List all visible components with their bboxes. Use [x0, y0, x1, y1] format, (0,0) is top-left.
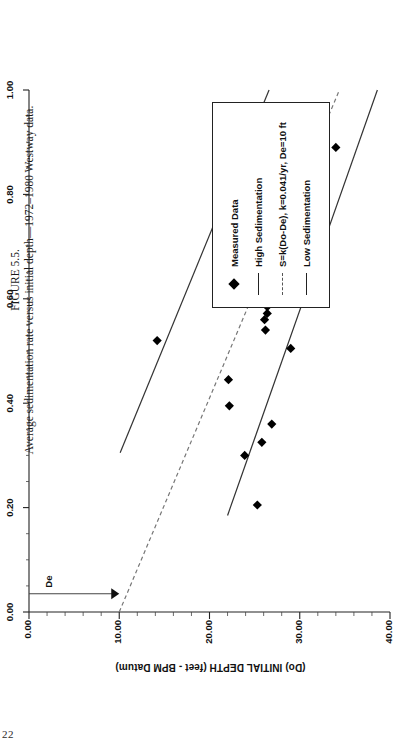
data-point-marker — [224, 375, 233, 384]
legend-item-label: Low Sedimentation — [301, 180, 312, 271]
chart-figure: SEDIMENTATION RATE (feet/year) (S) (Do) … — [0, 0, 398, 700]
legend-item: Measured Data — [222, 113, 246, 297]
data-point-marker — [257, 438, 266, 447]
data-point-marker — [267, 419, 276, 428]
data-point-marker — [153, 336, 162, 345]
y-axis-tick-label: 40.00 — [383, 620, 394, 664]
de-annotation-label: De — [43, 576, 54, 588]
x-axis-tick-label: 1.00 — [4, 76, 15, 104]
legend-item: S=k(Do-De), k=0.041/yr, De=10 ft — [270, 113, 294, 297]
y-axis-tick-label: 20.00 — [203, 620, 214, 664]
de-arrow-icon — [111, 588, 119, 599]
data-point-marker — [331, 143, 340, 152]
y-axis-tick-label: 0.00 — [22, 620, 33, 664]
page-number: 22 — [2, 728, 14, 740]
solid-line-icon — [258, 271, 259, 297]
legend-item: Low Sedimentation — [294, 113, 318, 297]
data-point-marker — [225, 401, 234, 410]
solid-line-icon — [306, 271, 307, 297]
legend-item-label: S=k(Do-De), k=0.041/yr, De=10 ft — [277, 122, 288, 271]
x-axis-tick-label: 0.40 — [4, 389, 15, 417]
x-axis-tick-label: 0.60 — [4, 285, 15, 313]
x-axis-tick-label: 0.20 — [4, 494, 15, 522]
chart-canvas: SEDIMENTATION RATE (feet/year) (S) (Do) … — [0, 0, 398, 700]
dashed-line-icon — [282, 271, 283, 297]
scatter-plot — [0, 0, 398, 700]
x-axis-tick-label: 0.80 — [4, 180, 15, 208]
data-point-marker — [253, 500, 262, 509]
chart-legend: Measured Data High Sedimentation S=k(Do-… — [212, 102, 330, 308]
x-axis-tick-label: 0.00 — [4, 598, 15, 626]
diamond-marker-icon — [230, 271, 238, 297]
legend-item-label: Measured Data — [229, 199, 240, 271]
data-point-marker — [261, 326, 270, 335]
legend-item: High Sedimentation — [246, 113, 270, 297]
legend-item-label: High Sedimentation — [253, 178, 264, 271]
y-axis-tick-label: 10.00 — [112, 620, 123, 664]
y-axis-tick-label: 30.00 — [293, 620, 304, 664]
